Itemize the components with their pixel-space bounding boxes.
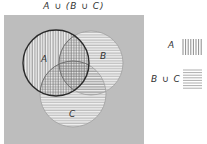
legend-label-a: A [168, 40, 175, 50]
legend-swatch-b-union-c [183, 70, 202, 88]
set-a-label: A [40, 54, 47, 64]
legend-label-b-union-c: B ∪ C [151, 74, 181, 84]
set-c-label: C [69, 109, 76, 119]
set-b-label: B [100, 51, 106, 61]
legend-swatch-a [183, 39, 201, 55]
venn-diagram: A B C [0, 0, 207, 144]
